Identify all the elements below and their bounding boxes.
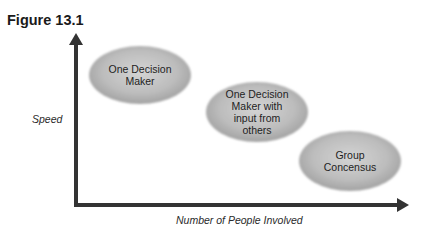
node-group-consensus: Group Concensus: [324, 149, 377, 173]
node-label-line: Maker: [108, 75, 171, 87]
node-one-decision-maker: One Decision Maker: [108, 63, 171, 87]
y-axis-label: Speed: [32, 113, 62, 125]
y-axis-arrowhead-icon: [69, 33, 83, 45]
node-label-line: input from: [225, 112, 288, 124]
x-axis: [74, 198, 409, 212]
node-label-line: Concensus: [324, 161, 377, 173]
node-label-line: others: [225, 124, 288, 136]
node-one-decision-maker-with-input: One Decision Maker with input from other…: [225, 88, 288, 136]
diagram-canvas: [0, 0, 426, 230]
node-label-line: One Decision: [108, 63, 171, 75]
x-axis-label: Number of People Involved: [176, 214, 303, 226]
x-axis-arrowhead-icon: [397, 198, 409, 212]
y-axis: [69, 33, 83, 205]
node-label-line: One Decision: [225, 88, 288, 100]
node-label-line: Maker with: [225, 100, 288, 112]
node-label-line: Group: [324, 149, 377, 161]
